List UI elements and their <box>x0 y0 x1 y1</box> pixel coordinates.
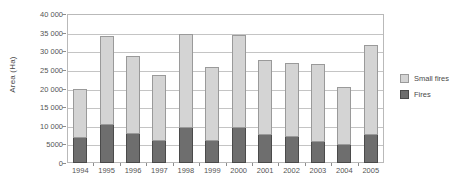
y-axis-tick-label: 30 000 <box>27 47 63 56</box>
bar-segment-small-fires[interactable] <box>337 87 351 145</box>
y-axis-tick-label: 25 000 <box>27 65 63 74</box>
x-axis-tick-mark <box>173 163 174 166</box>
x-axis-tick-label: 2005 <box>354 166 388 175</box>
x-axis-tick-mark <box>278 163 279 166</box>
bar-segment-fires[interactable] <box>285 137 299 163</box>
x-axis-tick-mark <box>226 163 227 166</box>
y-axis-tick-mark <box>62 107 66 108</box>
x-axis-tick-mark <box>199 163 200 166</box>
y-axis-tick-label: 35 000 <box>27 28 63 37</box>
bar-segment-fires[interactable] <box>73 138 87 163</box>
y-axis-tick-label: 40 000 <box>27 10 63 19</box>
x-axis-tick-mark <box>358 163 359 166</box>
y-axis-tick-label: 15 000 <box>27 103 63 112</box>
y-axis-tick-mark <box>62 33 66 34</box>
y-axis-tick-labels: 40 00035 00030 00025 00020 00015 00010 0… <box>25 14 63 163</box>
legend-swatch <box>400 90 409 99</box>
bar-segment-fires[interactable] <box>100 125 114 163</box>
y-axis-tick-mark <box>62 126 66 127</box>
bar-segment-fires[interactable] <box>258 135 272 163</box>
y-axis-tick-mark <box>62 51 66 52</box>
bars-layer <box>67 14 384 163</box>
bar-segment-fires[interactable] <box>152 141 166 163</box>
y-axis-tick-mark <box>62 163 66 164</box>
bar-segment-fires[interactable] <box>126 134 140 163</box>
bar-segment-small-fires[interactable] <box>232 35 246 128</box>
x-axis-tick-mark <box>146 163 147 166</box>
y-axis-tick-mark <box>62 144 66 145</box>
x-axis-tick-mark <box>120 163 121 166</box>
bar-segment-small-fires[interactable] <box>364 45 378 135</box>
bar-group[interactable] <box>311 64 325 163</box>
legend-item[interactable]: Fires <box>400 86 474 102</box>
bar-segment-fires[interactable] <box>311 142 325 163</box>
bar-segment-fires[interactable] <box>337 145 351 163</box>
legend-label: Fires <box>414 90 431 99</box>
bar-group[interactable] <box>100 36 114 163</box>
bar-segment-small-fires[interactable] <box>100 36 114 125</box>
bar-segment-small-fires[interactable] <box>205 67 219 140</box>
bar-group[interactable] <box>126 56 140 163</box>
x-axis-tick-mark <box>305 163 306 166</box>
y-axis-tick-label: 20 000 <box>27 84 63 93</box>
bar-group[interactable] <box>337 87 351 163</box>
bar-group[interactable] <box>73 89 87 163</box>
bar-group[interactable] <box>152 75 166 163</box>
bar-group[interactable] <box>205 67 219 163</box>
bar-group[interactable] <box>285 63 299 163</box>
legend-swatch <box>400 74 409 83</box>
bar-segment-small-fires[interactable] <box>258 60 272 136</box>
bar-segment-fires[interactable] <box>205 141 219 163</box>
bar-group[interactable] <box>258 60 272 163</box>
bar-segment-small-fires[interactable] <box>311 64 325 142</box>
y-axis-tick-mark <box>62 89 66 90</box>
bar-segment-small-fires[interactable] <box>126 56 140 134</box>
y-axis-tick-mark <box>62 14 66 15</box>
fires-area-stacked-bar-chart: Area (Ha) 40 00035 00030 00025 00020 000… <box>0 0 474 192</box>
y-axis-title: Area (Ha) <box>8 35 17 115</box>
bar-segment-small-fires[interactable] <box>285 63 299 138</box>
legend-item[interactable]: Small fires <box>400 70 474 86</box>
chart-legend: Small firesFires <box>400 70 474 102</box>
bar-segment-fires[interactable] <box>232 128 246 163</box>
bar-segment-small-fires[interactable] <box>179 34 193 129</box>
bar-segment-fires[interactable] <box>364 135 378 163</box>
x-axis-tick-mark <box>252 163 253 166</box>
bar-segment-small-fires[interactable] <box>152 75 166 142</box>
y-axis-tick-label: 5000 <box>27 140 63 149</box>
x-axis-tick-mark <box>331 163 332 166</box>
x-axis-tick-labels: 1994199519961997199819992000200120022003… <box>67 166 384 184</box>
bar-group[interactable] <box>364 45 378 163</box>
bar-segment-fires[interactable] <box>179 128 193 163</box>
bar-group[interactable] <box>179 34 193 163</box>
y-axis-tick-mark <box>62 70 66 71</box>
y-axis-tick-label: 10 000 <box>27 121 63 130</box>
x-axis-tick-mark <box>93 163 94 166</box>
legend-label: Small fires <box>414 74 449 83</box>
y-axis-tick-label: 0 <box>27 159 63 168</box>
bar-segment-small-fires[interactable] <box>73 89 87 139</box>
bar-group[interactable] <box>232 35 246 163</box>
